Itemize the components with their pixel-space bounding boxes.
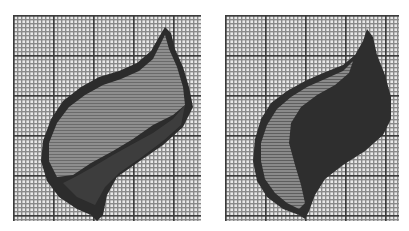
leaf-grid-image-left [13, 15, 201, 221]
leaf-grid-image-right [225, 15, 399, 221]
leaf-panel-right [225, 15, 399, 221]
leaf-panel-left [13, 15, 201, 221]
